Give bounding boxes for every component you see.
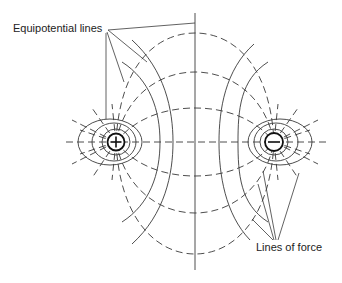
lines-of-force-leader-lines [252,171,299,240]
equipotential-lines-label: Equipotential lines [13,23,102,34]
negative-charge [265,133,283,151]
lines-of-force-label: Lines of force [256,242,322,253]
equipotential-leader-lines [106,23,195,119]
positive-charge [108,134,125,151]
